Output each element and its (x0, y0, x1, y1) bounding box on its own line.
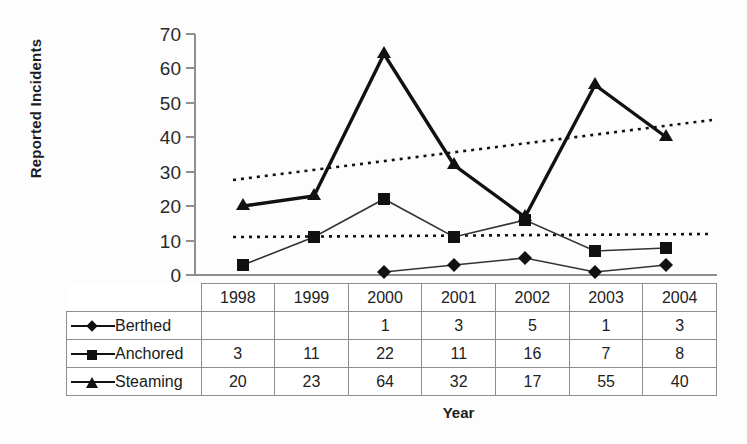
table-header-1998: 1998 (201, 284, 275, 312)
cell-berthed-2003: 1 (569, 312, 643, 340)
legend-item-anchored[interactable]: Anchored (67, 340, 202, 368)
x-axis-title-text: Year (443, 404, 475, 421)
cell-anchored-2004: 8 (643, 340, 717, 368)
y-tick-20: 20 (160, 196, 181, 217)
table-header-2003: 2003 (569, 284, 643, 312)
table-corner-cell (67, 284, 202, 312)
y-tick-60: 60 (160, 58, 181, 79)
y-tick-40: 40 (160, 127, 181, 148)
table-row: Berthed 1 3 5 1 3 (67, 312, 717, 340)
y-tick-70: 70 (160, 24, 181, 45)
cell-anchored-1998: 3 (201, 340, 275, 368)
cell-anchored-2001: 11 (422, 340, 496, 368)
legend-label-berthed: Berthed (115, 317, 171, 335)
trendline-anchored (233, 234, 710, 237)
triangle-marker-icon (71, 374, 115, 390)
legend-label-anchored: Anchored (115, 345, 184, 363)
cell-steaming-2001: 32 (422, 368, 496, 396)
cell-steaming-2004: 40 (643, 368, 717, 396)
cell-berthed-2004: 3 (643, 312, 717, 340)
table-header-2002: 2002 (496, 284, 570, 312)
table-header-1999: 1999 (275, 284, 349, 312)
cell-anchored-2002: 16 (496, 340, 570, 368)
trendline-steaming (233, 120, 712, 180)
cell-berthed-2001: 3 (422, 312, 496, 340)
chart-page: Reported Incidents 70 60 50 40 30 20 10 … (0, 0, 747, 444)
cell-steaming-2002: 17 (496, 368, 570, 396)
table-header-2004: 2004 (643, 284, 717, 312)
y-tick-10: 10 (160, 231, 181, 252)
legend-label-steaming: Steaming (115, 373, 183, 391)
legend-item-berthed[interactable]: Berthed (67, 312, 202, 340)
cell-steaming-1999: 23 (275, 368, 349, 396)
table-row: Anchored 3 11 22 11 16 7 8 (67, 340, 717, 368)
cell-berthed-2000: 1 (348, 312, 422, 340)
legend-item-steaming[interactable]: Steaming (67, 368, 202, 396)
cell-anchored-2003: 7 (569, 340, 643, 368)
table-header-2001: 2001 (422, 284, 496, 312)
cell-steaming-2003: 55 (569, 368, 643, 396)
y-tick-30: 30 (160, 162, 181, 183)
data-table: 1998 1999 2000 2001 2002 2003 2004 Berth… (66, 283, 717, 396)
cell-anchored-1999: 11 (275, 340, 349, 368)
square-marker-icon (71, 346, 115, 362)
table-row: Steaming 20 23 64 32 17 55 40 (67, 368, 717, 396)
table-header-row: 1998 1999 2000 2001 2002 2003 2004 (67, 284, 717, 312)
plot-area: 70 60 50 40 30 20 10 0 (0, 0, 747, 300)
cell-berthed-2002: 5 (496, 312, 570, 340)
cell-steaming-1998: 20 (201, 368, 275, 396)
cell-anchored-2000: 22 (348, 340, 422, 368)
x-axis-title: Year (0, 404, 747, 421)
diamond-marker-icon (71, 318, 115, 334)
y-axis-ticks (186, 34, 195, 275)
y-tick-50: 50 (160, 93, 181, 114)
cell-steaming-2000: 64 (348, 368, 422, 396)
y-axis-tick-labels: 70 60 50 40 30 20 10 0 (160, 24, 181, 286)
cell-berthed-1999 (275, 312, 349, 340)
cell-berthed-1998 (201, 312, 275, 340)
table-header-2000: 2000 (348, 284, 422, 312)
